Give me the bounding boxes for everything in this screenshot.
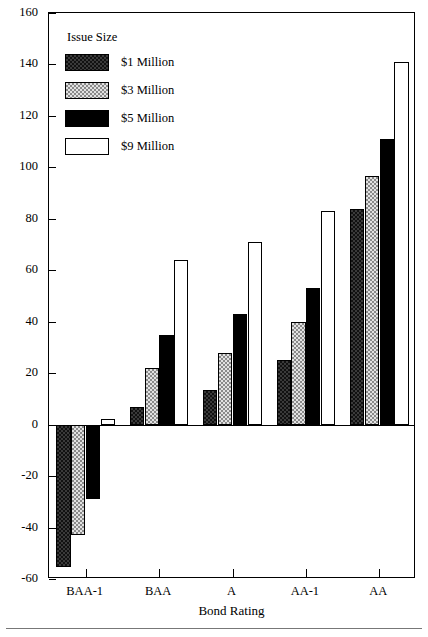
y-tick-label: 120 <box>0 109 38 122</box>
y-tick-label: -40 <box>0 520 38 533</box>
y-tick-label: 0 <box>0 417 38 430</box>
legend-swatch-icon <box>65 138 109 155</box>
bar-aa-1-9million <box>321 211 335 425</box>
legend-swatch-icon <box>65 82 109 99</box>
legend-item-3million: $3 Million <box>65 82 174 99</box>
y-tick-mark <box>49 219 56 220</box>
y-tick-label: 100 <box>0 160 38 173</box>
y-tick-label: 80 <box>0 212 38 225</box>
x-tick-mark <box>159 569 160 578</box>
bar-aa-1-1million <box>277 360 291 424</box>
legend-item-9million: $9 Million <box>65 138 174 155</box>
legend-items: $1 Million$3 Million$5 Million$9 Million <box>65 54 174 155</box>
x-tick-mark <box>233 569 234 578</box>
bar-a-1million <box>203 390 217 425</box>
y-tick-label: 20 <box>0 366 38 379</box>
y-tick-label: 160 <box>0 6 38 19</box>
bar-baa-9million <box>174 260 188 425</box>
footer-rule <box>6 628 422 629</box>
legend-label: $3 Million <box>121 83 174 98</box>
bar-aa-1-5million <box>306 288 320 424</box>
bar-baa-1-5million <box>86 425 100 500</box>
bar-aa-5million <box>380 139 394 425</box>
bar-baa-5million <box>159 335 173 425</box>
x-axis-title: Bond Rating <box>48 603 415 619</box>
legend-label: $5 Million <box>121 111 174 126</box>
bar-baa-1-3million <box>71 425 85 536</box>
legend-swatch-icon <box>65 110 109 127</box>
y-tick-mark <box>49 579 56 580</box>
legend-label: $1 Million <box>121 55 174 70</box>
bar-a-9million <box>248 242 262 425</box>
chart-figure: -60-40-20020406080100120140160 Basis Poi… <box>0 0 428 637</box>
x-tick-label-baa: BAA <box>145 584 171 599</box>
y-tick-mark <box>49 425 56 426</box>
x-tick-label-aa: AA <box>369 584 387 599</box>
y-tick-label: 60 <box>0 263 38 276</box>
bar-aa-1-3million <box>291 322 305 425</box>
legend-item-5million: $5 Million <box>65 110 174 127</box>
bar-baa-1-9million <box>101 419 115 424</box>
x-tick-mark <box>86 569 87 578</box>
y-tick-mark <box>49 167 56 168</box>
y-tick-label: -20 <box>0 469 38 482</box>
y-tick-mark <box>49 116 56 117</box>
legend-title: Issue Size <box>67 30 174 45</box>
y-tick-label: -60 <box>0 572 38 585</box>
y-tick-mark <box>49 528 56 529</box>
y-tick-mark <box>49 13 56 14</box>
x-tick-mark <box>379 569 380 578</box>
y-tick-mark <box>49 64 56 65</box>
y-tick-mark <box>49 270 56 271</box>
legend: Issue Size $1 Million$3 Million$5 Millio… <box>65 30 174 166</box>
legend-swatch-icon <box>65 54 109 71</box>
bar-a-3million <box>218 353 232 425</box>
y-tick-mark <box>49 476 56 477</box>
bar-baa-1-1million <box>56 425 70 568</box>
x-tick-label-a: A <box>227 584 236 599</box>
bar-aa-1million <box>350 209 364 425</box>
bar-baa-1million <box>130 407 144 425</box>
zero-baseline <box>49 425 414 426</box>
y-tick-label: 40 <box>0 314 38 327</box>
bar-a-5million <box>233 314 247 425</box>
y-tick-mark <box>49 373 56 374</box>
bar-baa-3million <box>145 368 159 425</box>
x-tick-mark <box>306 569 307 578</box>
legend-label: $9 Million <box>121 139 174 154</box>
x-tick-label-baa-1: BAA-1 <box>66 584 103 599</box>
y-tick-label: 140 <box>0 57 38 70</box>
bar-aa-9million <box>394 62 408 425</box>
x-tick-label-aa-1: AA-1 <box>291 584 319 599</box>
legend-item-1million: $1 Million <box>65 54 174 71</box>
y-tick-mark <box>49 322 56 323</box>
bar-aa-3million <box>365 176 379 424</box>
